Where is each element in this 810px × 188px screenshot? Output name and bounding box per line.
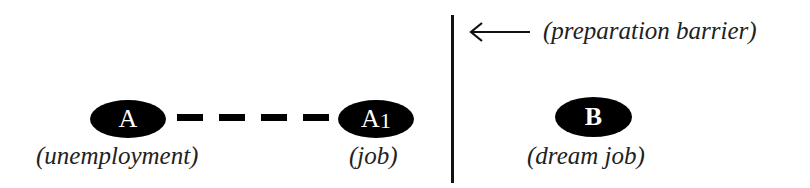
preparation-barrier-line (451, 15, 454, 183)
node-a-label: (unemployment) (36, 142, 198, 170)
node-b-label: (dream job) (527, 142, 645, 170)
node-a1-label: (job) (349, 142, 398, 170)
dash (261, 114, 287, 121)
node-b: B (555, 97, 632, 137)
node-a1-subscript: 1 (380, 108, 391, 134)
node-b-letter: B (585, 102, 602, 132)
dash (219, 114, 245, 121)
barrier-label: (preparation barrier) (543, 17, 757, 45)
node-a-letter: A (119, 104, 138, 134)
dash (303, 114, 329, 121)
dash (177, 114, 203, 121)
node-a1: A1 (338, 100, 414, 138)
left-arrow-icon (468, 22, 532, 42)
node-a: A (90, 100, 166, 138)
node-a1-letter: A (361, 104, 380, 134)
